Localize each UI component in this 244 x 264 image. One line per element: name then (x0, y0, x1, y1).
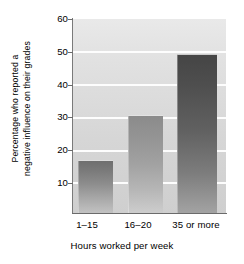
y-axis-title: Percentage who reported a negative influ… (0, 0, 42, 216)
y-tick-label-30: 30 (44, 112, 68, 122)
x-tick-label-35-or-more: 35 or more (163, 219, 229, 230)
x-axis-line (72, 213, 227, 214)
x-tick-label-16-20: 16–20 (112, 219, 164, 230)
bar-chart-figure: Percentage who reported a negative influ… (0, 0, 244, 264)
bar-16-20 (128, 115, 163, 213)
gridline-50 (73, 51, 226, 53)
x-tick-label-1-15: 1–15 (61, 219, 113, 230)
y-tick-label-50: 50 (44, 47, 68, 57)
bar-1-15 (78, 160, 113, 213)
plot-area (73, 19, 226, 213)
y-tick-label-40: 40 (44, 80, 68, 90)
y-tick-label-60: 60 (44, 14, 68, 24)
bar-35-or-more (177, 54, 217, 213)
y-tick-label-10: 10 (44, 178, 68, 188)
y-tick-label-20: 20 (44, 145, 68, 155)
y-axis-title-line-2: negative influence on their grades (21, 41, 33, 176)
x-axis-title: Hours worked per week (0, 240, 244, 251)
y-axis-title-line-1: Percentage who reported a (10, 41, 22, 176)
